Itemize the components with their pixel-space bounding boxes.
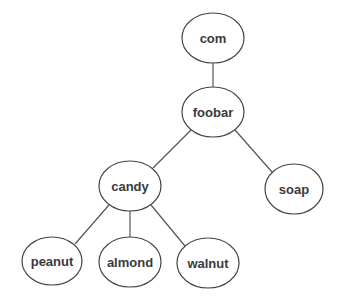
nodes: com foobar candy soap peanut almond waln… <box>22 13 323 288</box>
edge-foobar-candy <box>153 130 191 168</box>
node-foobar: foobar <box>182 87 244 137</box>
node-label: soap <box>279 182 309 197</box>
node-label: peanut <box>31 254 74 269</box>
edge-foobar-soap <box>235 130 272 172</box>
node-soap: soap <box>265 164 323 214</box>
node-peanut: peanut <box>22 237 82 285</box>
edge-candy-walnut <box>151 205 185 246</box>
node-label: foobar <box>193 105 233 120</box>
node-label: candy <box>111 179 149 194</box>
node-candy: candy <box>99 161 161 211</box>
tree-diagram: com foobar candy soap peanut almond waln… <box>0 0 342 302</box>
node-almond: almond <box>99 237 161 287</box>
node-com: com <box>182 13 244 63</box>
node-label: com <box>200 31 227 46</box>
node-label: almond <box>107 255 153 270</box>
edges <box>75 63 272 246</box>
node-walnut: walnut <box>177 238 239 288</box>
edge-candy-peanut <box>75 205 109 244</box>
node-label: walnut <box>186 256 229 271</box>
